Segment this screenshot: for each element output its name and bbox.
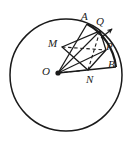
point-label-m: M (48, 38, 57, 49)
point-label-b: B (108, 59, 115, 70)
point-label-p: P (106, 41, 113, 52)
point-label-a: A (81, 11, 88, 22)
figure-canvas (0, 0, 135, 142)
main-circle (10, 19, 122, 131)
point-label-o: O (42, 66, 50, 77)
geometry-figure: A Q P B M N O (0, 0, 135, 142)
quadrilateral-mqpn (62, 31, 106, 70)
point-label-n: N (86, 74, 93, 85)
point-label-q: Q (96, 16, 104, 27)
center-point-dot (55, 70, 60, 75)
